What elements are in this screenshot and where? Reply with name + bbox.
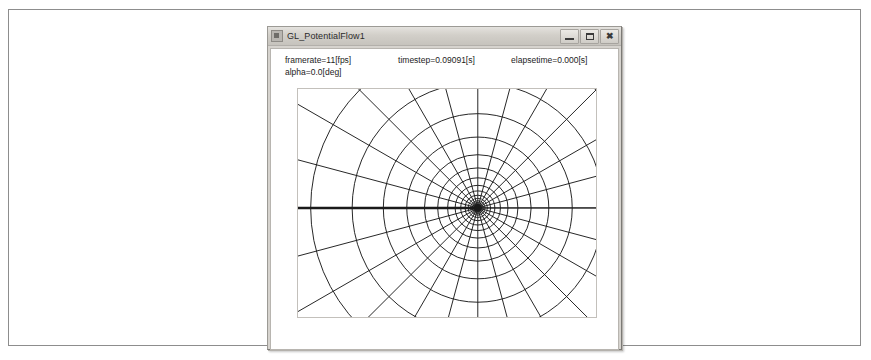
close-button[interactable]: ✖ xyxy=(600,29,619,44)
elapsetime-readout: elapsetime=0.000[s] xyxy=(511,54,608,66)
potential-flow-plot[interactable] xyxy=(297,88,597,318)
info-row-secondary: alpha=0.0[deg] xyxy=(285,66,608,78)
maximize-icon xyxy=(586,33,594,40)
mesh-circle-group xyxy=(298,89,596,317)
window-client-area: framerate=11[fps] timestep=0.09091[s] el… xyxy=(270,48,619,350)
close-icon: ✖ xyxy=(601,30,618,43)
window-title-bar[interactable]: GL_PotentialFlow1 ✖ xyxy=(268,27,621,46)
alpha-readout: alpha=0.0[deg] xyxy=(285,67,341,77)
application-icon xyxy=(271,30,283,42)
framerate-readout: framerate=11[fps] xyxy=(285,54,398,66)
polar-mesh-svg xyxy=(298,89,596,317)
timestep-readout: timestep=0.09091[s] xyxy=(398,54,511,66)
simulation-info-panel: framerate=11[fps] timestep=0.09091[s] el… xyxy=(271,49,618,83)
figure-frame: GL_PotentialFlow1 ✖ framerate=11[fps] ti… xyxy=(8,9,861,346)
minimize-icon xyxy=(565,38,574,40)
info-row-primary: framerate=11[fps] timestep=0.09091[s] el… xyxy=(285,54,608,66)
application-window[interactable]: GL_PotentialFlow1 ✖ framerate=11[fps] ti… xyxy=(267,26,622,350)
maximize-button[interactable] xyxy=(580,29,599,44)
mesh-core-group xyxy=(298,204,482,212)
mesh-spoke-group xyxy=(298,89,596,317)
minimize-button[interactable] xyxy=(560,29,579,44)
window-title: GL_PotentialFlow1 xyxy=(287,31,559,41)
